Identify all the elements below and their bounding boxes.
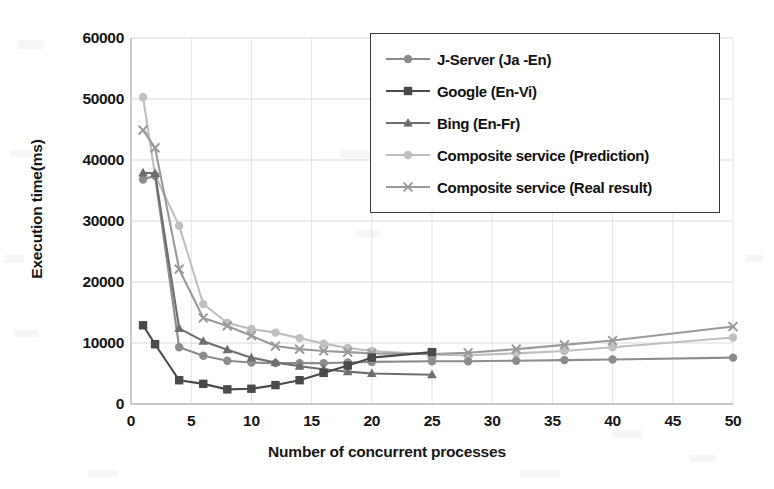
- legend-label: Google (En-Vi): [437, 83, 537, 100]
- legend-label: J-Server (Ja -En): [437, 51, 551, 68]
- data-point-marker: [271, 381, 279, 389]
- legend-item-5[interactable]: Composite service (Real result): [371, 171, 719, 203]
- data-point-marker: [404, 151, 412, 159]
- legend-label: Composite service (Real result): [437, 179, 652, 196]
- data-point-marker: [512, 356, 520, 364]
- data-point-marker: [560, 356, 568, 364]
- data-point-marker: [464, 357, 472, 365]
- legend-marker-circle-icon: [383, 50, 433, 68]
- data-point-marker: [729, 353, 737, 361]
- legend-marker-circle-icon: [383, 146, 433, 164]
- chart-legend: J-Server (Ja -En)Google (En-Vi)Bing (En-…: [370, 33, 720, 213]
- data-point-marker: [295, 334, 303, 342]
- data-point-marker: [344, 361, 352, 369]
- data-point-marker: [139, 93, 147, 101]
- data-point-marker: [404, 87, 412, 95]
- data-point-marker: [223, 385, 231, 393]
- series-2: [139, 321, 436, 393]
- data-point-marker: [247, 385, 255, 393]
- legend-item-1[interactable]: J-Server (Ja -En): [371, 43, 719, 75]
- data-point-marker: [428, 357, 436, 365]
- legend-label: Bing (En-Fr): [437, 115, 520, 132]
- legend-label: Composite service (Prediction): [437, 147, 649, 164]
- data-point-marker: [151, 340, 159, 348]
- legend-marker-x-icon: [383, 178, 433, 196]
- legend-item-3[interactable]: Bing (En-Fr): [371, 107, 719, 139]
- data-point-marker: [139, 321, 147, 329]
- data-point-marker: [729, 333, 737, 341]
- data-point-marker: [199, 300, 207, 308]
- data-point-marker: [404, 55, 412, 63]
- data-point-marker: [608, 355, 616, 363]
- chart-container: Execution time(ms) 010000200003000040000…: [0, 0, 774, 489]
- legend-item-4[interactable]: Composite service (Prediction): [371, 139, 719, 171]
- data-point-marker: [223, 356, 231, 364]
- data-point-marker: [319, 339, 327, 347]
- data-point-marker: [319, 369, 327, 377]
- data-point-marker: [428, 348, 436, 356]
- legend-marker-square-icon: [383, 82, 433, 100]
- data-point-marker: [271, 328, 279, 336]
- data-point-marker: [175, 222, 183, 230]
- data-point-marker: [199, 380, 207, 388]
- data-point-marker: [199, 352, 207, 360]
- data-point-marker: [295, 376, 303, 384]
- data-point-marker: [368, 353, 376, 361]
- legend-item-2[interactable]: Google (En-Vi): [371, 75, 719, 107]
- legend-marker-triangle-icon: [383, 114, 433, 132]
- data-point-marker: [175, 376, 183, 384]
- data-point-marker: [139, 175, 147, 183]
- data-point-marker: [139, 126, 148, 135]
- data-point-marker: [175, 343, 183, 351]
